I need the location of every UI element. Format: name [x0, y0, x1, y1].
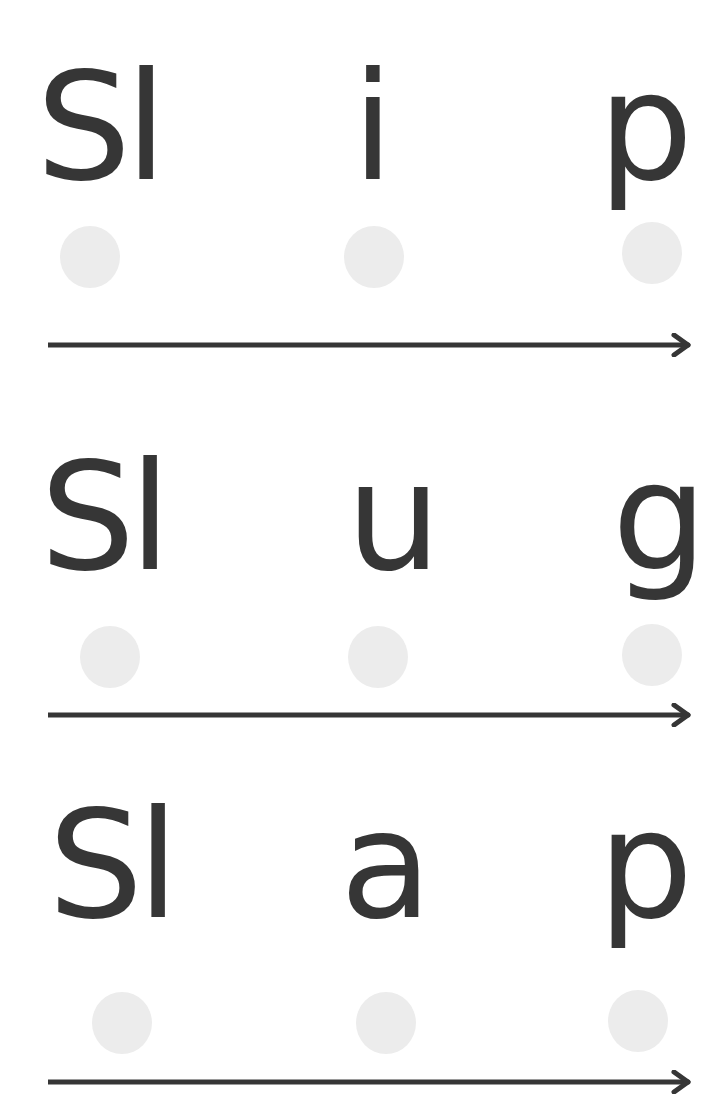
sound-dot-1[interactable]: [92, 992, 152, 1054]
segment-vowel: a: [340, 790, 426, 940]
sound-dot-1[interactable]: [60, 226, 120, 288]
sound-dot-2[interactable]: [348, 626, 408, 688]
segment-onset: Sl: [36, 52, 161, 202]
sound-dot-2[interactable]: [344, 226, 404, 288]
right-arrow-icon: [48, 703, 694, 727]
right-arrow-icon: [48, 333, 694, 357]
segment-onset: Sl: [48, 790, 173, 940]
sound-dot-3[interactable]: [608, 990, 668, 1052]
word-row-slug: Sl u g: [0, 370, 726, 740]
segment-vowel: i: [352, 52, 388, 202]
segment-coda: g: [612, 442, 701, 592]
sound-dot-3[interactable]: [622, 222, 682, 284]
sound-dot-1[interactable]: [80, 626, 140, 688]
word-row-slip: Sl i p: [0, 0, 726, 370]
segment-vowel: u: [346, 442, 435, 592]
right-arrow-icon: [48, 1070, 694, 1094]
sound-dot-3[interactable]: [622, 624, 682, 686]
segment-coda: p: [598, 52, 687, 202]
sound-dot-2[interactable]: [356, 992, 416, 1054]
word-row-slap: Sl a p: [0, 740, 726, 1110]
segment-coda: p: [598, 790, 687, 940]
segment-onset: Sl: [40, 442, 165, 592]
